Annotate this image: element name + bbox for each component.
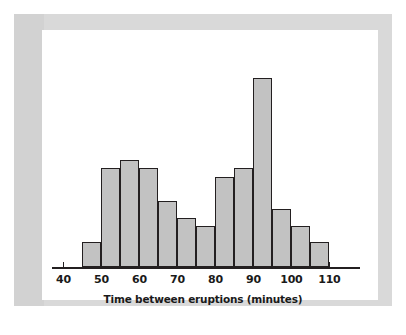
x-axis-tick [253,262,254,267]
x-axis-tick-label: 90 [246,273,261,286]
histogram-bar [177,218,196,267]
x-axis-tick-label: 40 [56,273,71,286]
histogram-bar [196,226,215,267]
histogram-bar [215,177,234,267]
x-axis-tick-label: 50 [94,273,109,286]
x-axis-tick-label: 70 [170,273,185,286]
plot-panel [42,30,378,300]
x-axis-tick [63,262,64,267]
histogram-bar [120,160,139,267]
histogram-bar [310,242,329,267]
figure-mat-shadow [14,14,44,306]
x-axis-label: Time between eruptions (minutes) [0,293,406,305]
x-axis-tick [291,262,292,267]
histogram-bar [139,168,158,267]
histogram-bar [253,78,272,267]
x-axis-tick-label: 110 [318,273,340,286]
histogram-bar [82,242,101,267]
histogram-figure: 405060708090100110 Time between eruption… [0,0,406,335]
x-axis-tick [177,262,178,267]
plot-area [42,30,378,300]
x-axis-tick [215,262,216,267]
x-axis-tick-label: 60 [132,273,147,286]
histogram-bar [234,168,253,267]
histogram-bar [272,209,291,267]
histogram-bar [291,226,310,267]
x-axis-line [52,267,360,269]
histogram-bar [158,201,177,267]
x-axis-tick-label: 100 [280,273,302,286]
x-axis-tick [329,262,330,267]
x-axis-tick [139,262,140,267]
x-axis-tick [101,262,102,267]
histogram-bar [101,168,120,267]
x-axis-tick-label: 80 [208,273,223,286]
